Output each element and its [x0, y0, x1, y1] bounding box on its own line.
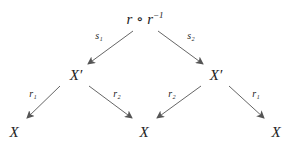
arrow-left-r2: [89, 86, 132, 118]
edge-label-right-r1: r₁: [252, 88, 259, 99]
arrow-right-r2: [157, 86, 201, 118]
node-mid-right: X′: [210, 67, 222, 84]
edge-label-left-r1: r₁: [29, 88, 36, 99]
node-bottom-left: X: [9, 124, 18, 141]
node-top: r ∘ r−1: [126, 10, 163, 28]
node-bottom-center: X: [139, 124, 148, 141]
node-bottom-right: X: [271, 124, 280, 141]
node-mid-left: X′: [70, 67, 82, 84]
edge-label-s1: s₁: [95, 30, 102, 41]
arrow-s2: [158, 31, 203, 64]
edge-label-s2: s₂: [187, 30, 194, 41]
edge-label-right-r2: r₂: [168, 88, 175, 99]
edge-label-left-r2: r₂: [113, 88, 120, 99]
